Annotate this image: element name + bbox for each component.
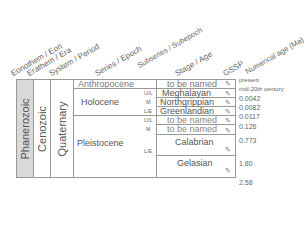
gssp-icon: ✎ <box>225 117 231 124</box>
gssp-icon: ✎ <box>225 90 231 97</box>
eon-cell: Phanerozoic <box>17 80 34 178</box>
stage-pleistocene-middle: to be named ✎ <box>157 125 236 135</box>
age-value: 0.0082 <box>239 104 260 111</box>
series-holocene: Holocene U/L M L/E <box>74 89 157 116</box>
gssp-icon: ✎ <box>225 146 231 153</box>
series-anthropocene: Anthropocene <box>74 80 157 89</box>
stage-calabrian: Calabrian ✎ <box>157 135 236 156</box>
header-gssp: GSSP <box>222 60 245 78</box>
era-cell: Cenozoic <box>34 80 51 178</box>
series-pleistocene: Pleistocene U/L M L/E <box>74 116 157 178</box>
stage-gelasian: Gelasian ✎ <box>157 156 236 178</box>
header-age: Numerical age (Ma) <box>244 36 305 75</box>
age-value: 0.773 <box>239 137 257 144</box>
age-mid20th: mid-20th century <box>239 86 284 92</box>
gssp-icon: ✎ <box>225 167 231 174</box>
era-label: Cenozoic <box>36 106 48 152</box>
age-value: 1.80 <box>239 160 253 167</box>
age-value: 0.0042 <box>239 95 260 102</box>
eon-label: Phanerozoic <box>19 98 31 159</box>
header-stage: Stage / Age <box>174 50 214 78</box>
gssp-icon: ✎ <box>225 127 231 134</box>
age-value: 0.0117 <box>239 113 260 120</box>
period-label: Quaternary <box>56 101 68 156</box>
gssp-icon: ✎ <box>225 80 231 87</box>
gssp-icon: ✎ <box>225 108 231 115</box>
age-value: 0.126 <box>239 123 257 130</box>
period-cell: Quaternary <box>51 80 74 178</box>
gssp-icon: ✎ <box>225 99 231 106</box>
age-present: present <box>239 77 259 83</box>
age-value: 2.58 <box>239 179 253 186</box>
chrono-table: Phanerozoic Cenozoic Quaternary Anthropo… <box>16 79 236 178</box>
